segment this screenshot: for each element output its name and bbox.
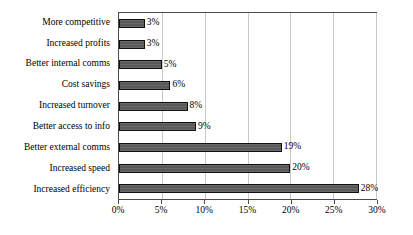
bar-value-label: 6% <box>172 81 185 91</box>
x-axis-tick <box>377 200 378 204</box>
x-axis-tick-label: 15% <box>239 206 256 216</box>
bar-value-label: 8% <box>190 101 203 111</box>
category-label: Better external comms <box>0 137 116 158</box>
x-axis-tick <box>334 200 335 204</box>
bar-row: 3% <box>119 34 376 55</box>
x-axis-tick-label: 30% <box>368 206 385 216</box>
gridline <box>376 13 377 199</box>
bar-value-label: 20% <box>292 163 309 173</box>
category-label: More competitive <box>0 12 116 33</box>
category-label: Increased turnover <box>0 96 116 117</box>
category-label: Increased efficiency <box>0 179 116 200</box>
x-axis-tick <box>248 200 249 204</box>
category-label: Increased speed <box>0 158 116 179</box>
bar: 19% <box>119 143 282 152</box>
bar: 5% <box>119 60 162 69</box>
x-axis-tick-label: 20% <box>282 206 299 216</box>
bar: 20% <box>119 164 290 173</box>
bar-row: 19% <box>119 137 376 158</box>
x-axis-tick <box>291 200 292 204</box>
bar-value-label: 3% <box>147 39 160 49</box>
x-axis-tick <box>204 200 205 204</box>
bar: 9% <box>119 122 196 131</box>
bar-row: 20% <box>119 158 376 179</box>
category-label: Better access to info <box>0 116 116 137</box>
category-label: Cost savings <box>0 75 116 96</box>
value-axis: 0%5%10%15%20%25%30% <box>118 200 377 228</box>
bar: 8% <box>119 102 188 111</box>
bar: 6% <box>119 81 170 90</box>
bar-series: 3%3%5%6%8%9%19%20%28% <box>119 13 376 199</box>
category-label: Better internal comms <box>0 54 116 75</box>
bar-row: 28% <box>119 178 376 199</box>
x-axis-tick-label: 5% <box>155 206 168 216</box>
category-label: Increased profits <box>0 33 116 54</box>
bar-chart: More competitiveIncreased profitsBetter … <box>0 0 413 235</box>
bar-value-label: 5% <box>164 60 177 70</box>
bar-value-label: 3% <box>147 19 160 29</box>
bar-row: 8% <box>119 96 376 117</box>
bar-row: 9% <box>119 116 376 137</box>
bar-row: 5% <box>119 54 376 75</box>
x-axis-tick <box>161 200 162 204</box>
bar-row: 3% <box>119 13 376 34</box>
x-axis-tick-label: 0% <box>112 206 125 216</box>
bar-row: 6% <box>119 75 376 96</box>
bar-value-label: 19% <box>284 143 301 153</box>
bar-value-label: 9% <box>198 122 211 132</box>
x-axis-tick-label: 25% <box>325 206 342 216</box>
bar: 3% <box>119 40 145 49</box>
bar: 3% <box>119 19 145 28</box>
bar-value-label: 28% <box>361 184 378 194</box>
plot-area: 3%3%5%6%8%9%19%20%28% <box>118 12 377 200</box>
x-axis-tick <box>118 200 119 204</box>
category-axis: More competitiveIncreased profitsBetter … <box>0 12 116 200</box>
bar: 28% <box>119 184 359 193</box>
x-axis-tick-label: 10% <box>196 206 213 216</box>
